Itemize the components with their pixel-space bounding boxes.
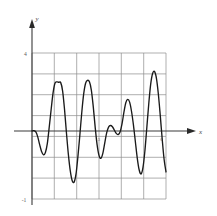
x-axis (14, 128, 196, 134)
y-tick-label-top: 4 (24, 51, 27, 57)
function-plot: y x 4 -1 3 6 (0, 0, 217, 216)
grid-vertical-lines (32, 53, 166, 199)
y-tick-label-bottom: -1 (22, 197, 27, 203)
x-axis-arrowhead (187, 128, 196, 134)
figure-container: y x 4 -1 3 6 (0, 0, 217, 216)
y-axis-label: y (35, 15, 40, 23)
y-axis (29, 19, 35, 205)
y-axis-arrowhead (29, 19, 35, 28)
x-tick-label-mid: 3 (98, 137, 101, 142)
x-axis-label: x (198, 128, 203, 136)
